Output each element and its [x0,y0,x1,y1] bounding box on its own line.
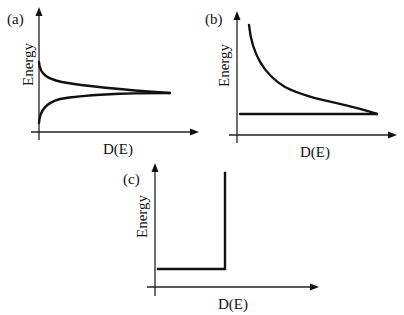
panel-b-xlabel: D(E) [300,144,330,161]
panel-b-x-arrow-icon [388,132,397,139]
panel-a-lower-branch [39,93,170,123]
dos-figure: (a) Energy D(E) (b) Energy D(E) (c) Ener… [0,0,404,315]
panel-c-label: (c) [123,171,140,188]
panel-a-ylabel: Energy [20,42,36,86]
panel-c-y-arrow-icon [152,163,159,172]
panel-b: (b) Energy D(E) [205,11,397,161]
panel-c-x-arrow-icon [310,284,319,291]
panel-a: (a) Energy D(E) [7,7,199,158]
panel-a-label: (a) [7,11,24,28]
panel-a-x-arrow-icon [190,129,199,136]
panel-a-y-arrow-icon [36,7,43,16]
panel-b-y-arrow-icon [234,11,241,20]
panel-c: (c) Energy D(E) [123,163,319,313]
panel-b-ylabel: Energy [216,43,232,87]
panel-a-upper-branch [39,62,170,93]
panel-c-ylabel: Energy [134,194,150,238]
panel-c-step-curve [158,173,225,269]
panel-c-xlabel: D(E) [218,296,248,313]
panel-b-label: (b) [205,11,223,28]
panel-b-decay-curve [249,25,377,114]
panel-a-xlabel: D(E) [103,141,133,158]
